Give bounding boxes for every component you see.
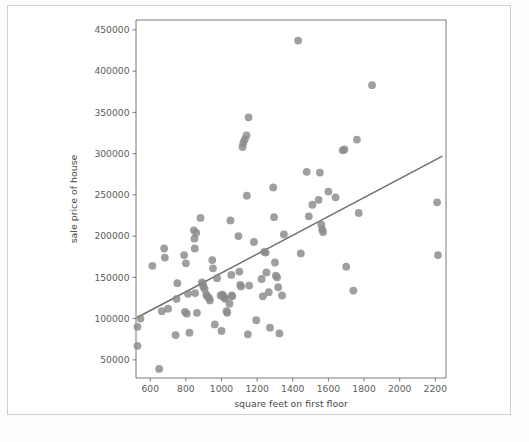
data-point xyxy=(173,295,181,303)
data-point xyxy=(235,268,243,276)
data-point xyxy=(209,264,217,272)
data-point xyxy=(355,209,363,217)
data-point xyxy=(276,330,284,338)
figure-page: 5000010000015000020000025000030000035000… xyxy=(0,0,529,442)
data-point xyxy=(353,136,361,144)
data-point xyxy=(273,273,281,281)
x-tick-label: 2000 xyxy=(388,383,412,394)
data-point xyxy=(270,213,278,221)
data-point xyxy=(182,259,190,267)
axes-spines xyxy=(136,20,446,378)
y-tick-label: 50000 xyxy=(100,354,129,365)
data-point xyxy=(258,275,266,283)
data-point xyxy=(263,269,271,277)
x-tick-label: 1000 xyxy=(210,383,234,394)
data-point xyxy=(193,309,201,317)
data-point xyxy=(223,309,231,317)
data-point xyxy=(180,251,188,259)
data-point xyxy=(308,201,316,209)
trendline-segment xyxy=(137,156,443,318)
data-point xyxy=(332,193,340,201)
data-point xyxy=(137,315,145,323)
data-point xyxy=(227,217,235,225)
data-point xyxy=(303,168,311,176)
data-point xyxy=(262,249,270,257)
y-tick-label: 400000 xyxy=(94,65,129,76)
data-point xyxy=(226,300,234,308)
x-tick-label: 800 xyxy=(177,383,195,394)
data-point xyxy=(228,292,236,300)
data-point xyxy=(172,331,180,339)
scatter-points xyxy=(134,37,442,373)
data-point xyxy=(297,250,305,258)
data-point xyxy=(155,365,163,373)
scatter-plot: 5000010000015000020000025000030000035000… xyxy=(0,0,529,442)
data-point xyxy=(237,283,245,291)
data-point xyxy=(269,184,277,192)
data-point xyxy=(244,330,252,338)
data-point xyxy=(191,289,199,297)
y-tick-label: 150000 xyxy=(94,272,129,283)
data-point xyxy=(191,245,199,253)
y-tick-label: 100000 xyxy=(94,313,129,324)
y-tick-label: 350000 xyxy=(94,107,129,118)
data-point xyxy=(211,320,219,328)
data-point xyxy=(173,279,181,287)
trendline xyxy=(137,156,443,318)
data-point xyxy=(164,305,172,313)
data-point xyxy=(266,324,274,332)
data-point xyxy=(342,263,350,271)
x-tick-label: 1400 xyxy=(281,383,305,394)
data-point xyxy=(161,254,169,262)
data-point xyxy=(245,113,253,121)
y-tick-label: 200000 xyxy=(94,230,129,241)
data-point xyxy=(250,238,258,246)
x-tick-label: 1600 xyxy=(317,383,341,394)
data-point xyxy=(433,198,441,206)
data-point xyxy=(341,146,349,154)
data-point xyxy=(243,192,251,200)
data-point xyxy=(265,288,273,296)
x-tick-label: 1800 xyxy=(352,383,376,394)
data-point xyxy=(280,231,288,239)
data-point xyxy=(183,310,191,318)
data-point xyxy=(184,290,192,298)
data-point xyxy=(278,292,286,300)
x-tick-label: 600 xyxy=(141,383,159,394)
x-tick-label: 1200 xyxy=(245,383,269,394)
data-point xyxy=(243,132,251,140)
data-point xyxy=(368,81,376,89)
data-point xyxy=(434,251,442,259)
data-point xyxy=(315,196,323,204)
y-axis: 5000010000015000020000025000030000035000… xyxy=(94,24,136,365)
data-point xyxy=(213,274,221,282)
y-tick-label: 250000 xyxy=(94,189,129,200)
data-point xyxy=(274,283,282,291)
y-tick-label: 450000 xyxy=(94,24,129,35)
data-point xyxy=(148,262,156,270)
data-point xyxy=(235,232,243,240)
data-point xyxy=(206,297,214,305)
data-point xyxy=(271,259,279,267)
data-point xyxy=(160,245,168,253)
data-point xyxy=(197,214,205,222)
data-point xyxy=(245,282,253,290)
data-point xyxy=(294,37,302,45)
data-point xyxy=(218,327,226,335)
data-point xyxy=(325,188,333,196)
x-tick-label: 2200 xyxy=(424,383,448,394)
data-point xyxy=(316,169,324,177)
data-point xyxy=(349,287,357,295)
data-point xyxy=(319,228,327,236)
data-point xyxy=(227,271,235,279)
data-point xyxy=(134,323,142,331)
data-point xyxy=(134,342,142,350)
y-tick-label: 300000 xyxy=(94,148,129,159)
data-point xyxy=(208,256,216,264)
figure-caption xyxy=(0,428,529,442)
y-axis-title: sale price of house xyxy=(68,154,79,243)
x-axis-title: square feet on first floor xyxy=(234,398,348,409)
data-point xyxy=(192,229,200,237)
data-point xyxy=(252,316,260,324)
x-axis: 6008001000120014001600180020002200 xyxy=(141,378,447,394)
